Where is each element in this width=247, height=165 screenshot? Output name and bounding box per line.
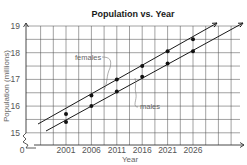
data-point-females xyxy=(64,112,68,116)
data-point-males xyxy=(89,104,93,108)
grid xyxy=(26,26,240,145)
origin-label: 0 xyxy=(20,145,25,155)
data-point-females xyxy=(191,37,195,41)
population-chart: Population vs. Year 20012006201120162021… xyxy=(0,0,247,165)
data-point-males xyxy=(191,49,195,53)
data-point-females xyxy=(115,77,119,81)
y-axis-label: Population (millions) xyxy=(2,50,11,122)
data-point-males xyxy=(115,89,119,93)
data-point-females xyxy=(89,93,93,97)
x-tick-label: 2006 xyxy=(82,145,101,155)
data-point-females xyxy=(140,64,144,68)
females-annotation: females xyxy=(75,53,102,62)
data-point-females xyxy=(166,49,170,53)
x-tick-label: 2011 xyxy=(108,145,127,155)
x-tick-label: 2021 xyxy=(158,145,177,155)
x-tick-label: 2026 xyxy=(184,145,203,155)
males-annotation: males xyxy=(140,102,160,111)
y-tick-label: 17 xyxy=(11,74,21,84)
trend-line-females xyxy=(38,23,217,124)
x-axis-label: Year xyxy=(122,155,139,164)
y-tick-label: 19 xyxy=(11,21,21,31)
axis-break-icon xyxy=(23,133,36,148)
data-point-males xyxy=(166,61,170,65)
data-point-males xyxy=(64,120,68,124)
x-tick-label: 2001 xyxy=(57,145,76,155)
chart-title: Population vs. Year xyxy=(92,9,175,19)
axes xyxy=(23,23,244,148)
tick-labels: 2001200620112016202120261516171819 xyxy=(11,21,203,155)
y-tick-label: 18 xyxy=(11,48,21,58)
y-tick-label: 16 xyxy=(11,101,21,111)
x-tick-label: 2016 xyxy=(133,145,152,155)
y-tick-label: 15 xyxy=(11,128,21,138)
data-point-males xyxy=(140,75,144,79)
